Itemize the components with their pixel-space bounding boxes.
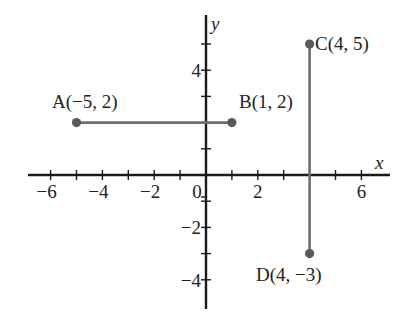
coordinate-plane: −6−4−2026 x 4−2−4 y A(−5, 2)B(1, 2)C(4, … bbox=[0, 0, 413, 334]
x-axis-tick-labels: −6−4−2026 bbox=[36, 181, 366, 202]
y-axis-label: y bbox=[209, 13, 220, 34]
point-label-D: D(4, −3) bbox=[256, 264, 322, 286]
point-D bbox=[305, 249, 314, 258]
x-tick-label: 2 bbox=[253, 181, 263, 202]
point-B bbox=[227, 118, 236, 127]
x-axis-label: x bbox=[374, 152, 384, 173]
x-tick-label: −6 bbox=[36, 181, 56, 202]
point-labels: A(−5, 2)B(1, 2)C(4, 5)D(4, −3) bbox=[52, 33, 369, 286]
x-tick-label: −2 bbox=[140, 181, 160, 202]
x-tick-label: 6 bbox=[357, 181, 367, 202]
point-label-C: C(4, 5) bbox=[315, 33, 369, 55]
y-axis: 4−2−4 y bbox=[181, 13, 220, 309]
y-tick-label: 4 bbox=[192, 60, 202, 81]
point-label-B: B(1, 2) bbox=[239, 91, 293, 113]
point-A bbox=[72, 118, 81, 127]
x-tick-label: 0 bbox=[192, 181, 202, 202]
y-tick-label: −2 bbox=[181, 217, 201, 238]
x-axis: −6−4−2026 x bbox=[28, 152, 390, 202]
point-C bbox=[305, 39, 314, 48]
y-tick-label: −4 bbox=[181, 270, 202, 291]
point-label-A: A(−5, 2) bbox=[52, 91, 118, 113]
x-tick-label: −4 bbox=[88, 181, 109, 202]
